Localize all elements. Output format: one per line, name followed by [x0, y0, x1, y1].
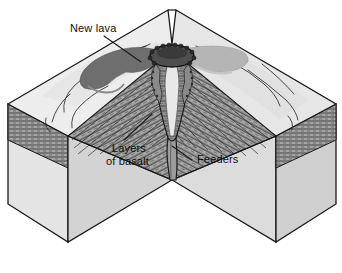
feeder-conduit	[167, 138, 177, 180]
label-feeders: Feeders	[197, 153, 239, 165]
label-new-lava: New lava	[70, 22, 117, 34]
label-layers-of-basalt-line2: of basalt	[106, 155, 149, 167]
diagram-canvas: New lava Layers of basalt Feeders	[0, 0, 342, 273]
label-layers-of-basalt-line1: Layers	[112, 142, 146, 154]
volcano-block-diagram: New lava Layers of basalt Feeders	[0, 0, 342, 273]
